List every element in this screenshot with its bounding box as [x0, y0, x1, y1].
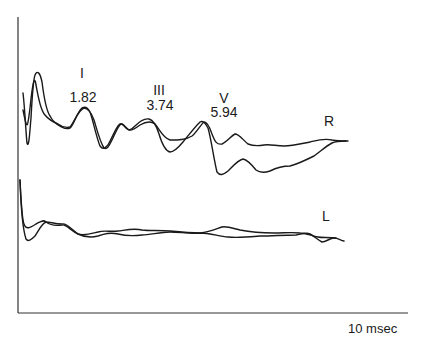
wave-iii-latency: 3.74 [146, 98, 173, 112]
wave-i-label: I [80, 66, 84, 80]
wave-v-latency: 5.94 [210, 105, 237, 119]
left-ear-label: L [322, 209, 330, 223]
wave-v-label: V [219, 91, 228, 105]
trace-r-1 [23, 72, 346, 174]
abr-waveform-chart [0, 0, 421, 338]
wave-i-latency: 1.82 [69, 90, 96, 104]
trace-l-1 [20, 180, 336, 238]
right-ear-label: R [324, 114, 334, 128]
x-axis-unit-label: 10 msec [348, 322, 397, 336]
wave-iii-label: III [153, 83, 165, 97]
